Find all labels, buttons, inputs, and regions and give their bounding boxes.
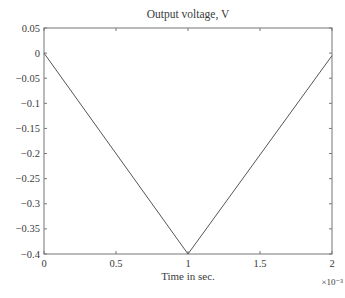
y-tick-label: 0.05 [22,23,40,34]
plot-area [44,28,332,254]
x-tick-label: 0.5 [109,258,122,269]
y-axis-ticks: 0.050−0.05−0.1−0.15−0.2−0.25−0.3−0.35−0.… [16,23,332,260]
y-tick-label: −0.4 [21,249,41,260]
x-tick-label: 2 [329,258,334,269]
y-tick-label: −0.25 [16,173,40,184]
chart-title: Output voltage, V [147,8,230,21]
x-axis-label: Time in sec. [161,270,215,282]
x-axis-multiplier: ×10⁻³ [321,277,343,287]
y-tick-label: −0.05 [16,73,40,84]
y-tick-label: −0.2 [21,148,40,159]
x-axis-ticks: 00.511.52 [41,28,334,269]
output-voltage-line [44,53,332,254]
y-tick-label: 0 [35,48,40,59]
chart: Output voltage, V 00.511.52 0.050−0.05−0… [0,0,345,298]
x-tick-label: 1.5 [253,258,266,269]
y-tick-label: −0.3 [21,198,40,209]
x-tick-label: 0 [41,258,46,269]
y-tick-label: −0.35 [16,223,40,234]
y-tick-label: −0.1 [21,98,40,109]
y-tick-label: −0.15 [16,123,40,134]
x-tick-label: 1 [185,258,190,269]
